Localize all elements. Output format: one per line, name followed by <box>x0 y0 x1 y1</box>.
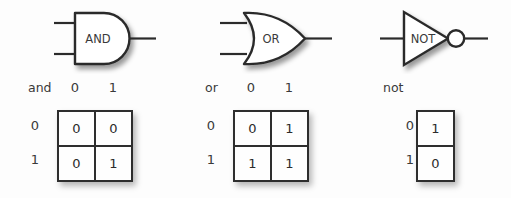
table-cell: 0 <box>59 112 95 146</box>
table-cell: 0 <box>96 112 132 146</box>
table-cell: 1 <box>272 112 308 146</box>
table-cell: 0 <box>418 147 454 181</box>
table-cell: 0 <box>59 147 95 181</box>
not-table-row-header-1: 1 <box>403 152 417 167</box>
table-cell: 1 <box>272 147 308 181</box>
or-table-column-header-1: 1 <box>280 80 298 95</box>
not-table-operator-label: not <box>383 80 403 95</box>
table-cell: 1 <box>96 147 132 181</box>
and-table-operator-label: and <box>28 80 52 95</box>
and-table-grid: 0 0 0 1 <box>57 110 133 182</box>
or-table-row-header-0: 0 <box>204 118 218 133</box>
table-cell: 1 <box>418 112 454 146</box>
not-truth-table: not 0 1 1 0 <box>355 0 511 198</box>
and-truth-table: and 0 1 0 1 0 0 0 1 <box>0 0 180 198</box>
table-cell: 1 <box>235 147 271 181</box>
not-table-grid: 1 0 <box>416 110 455 182</box>
and-table-row-header-1: 1 <box>28 152 42 167</box>
and-table-column-header-0: 0 <box>66 80 84 95</box>
or-truth-table: or 0 1 0 1 0 1 1 1 <box>180 0 355 198</box>
not-table-row-header-0: 0 <box>403 118 417 133</box>
or-table-grid: 0 1 1 1 <box>233 110 309 182</box>
and-table-row-header-0: 0 <box>28 118 42 133</box>
or-table-column-header-0: 0 <box>242 80 260 95</box>
or-table-row-header-1: 1 <box>204 152 218 167</box>
logic-gates-figure: AND OR <box>0 0 511 198</box>
table-cell: 0 <box>235 112 271 146</box>
or-table-operator-label: or <box>205 80 218 95</box>
and-table-column-header-1: 1 <box>104 80 122 95</box>
